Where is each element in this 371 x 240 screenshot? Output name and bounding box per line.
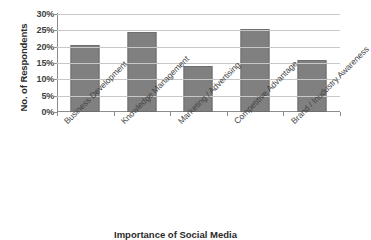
x-axis-tick-mark [340,112,341,116]
gridline [57,47,340,48]
y-axis-tick-label: 30% [37,9,54,19]
gridline [57,14,340,15]
y-axis-tick-mark [53,63,57,64]
x-axis-tick-mark [227,112,228,116]
y-axis-tick-mark [53,30,57,31]
plot-area [57,14,340,112]
x-axis-tick-mark [283,112,284,116]
x-axis-title: Importance of Social Media [0,229,351,240]
y-axis-tick-mark [53,112,57,113]
x-axis-tick-mark [114,112,115,116]
y-axis-tick-labels: 30%25%20%15%10%5%0% [24,14,54,112]
y-axis-tick-label: 25% [37,25,54,35]
y-axis-tick-label: 20% [37,42,54,52]
bar[interactable] [241,29,270,112]
y-axis-tick-mark [53,14,57,15]
gridline [57,79,340,80]
y-axis-tick-label: 10% [37,74,54,84]
gridline [57,63,340,64]
gridline [57,96,340,97]
y-axis-tick-mark [53,96,57,97]
bar[interactable] [127,32,156,112]
gridline [57,30,340,31]
bar[interactable] [297,60,326,112]
y-axis-tick-mark [53,79,57,80]
y-axis-tick-mark [53,47,57,48]
bar[interactable] [184,66,213,112]
y-axis-tick-label: 15% [37,58,54,68]
x-axis-tick-mark [57,112,58,116]
x-axis-tick-mark [170,112,171,116]
